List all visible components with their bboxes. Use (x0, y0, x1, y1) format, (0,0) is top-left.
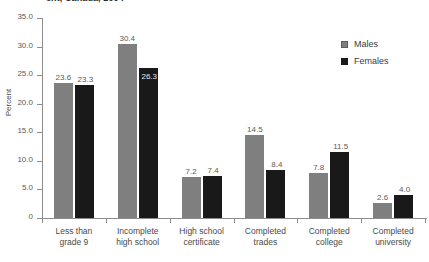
legend-item-males: Males (341, 39, 389, 49)
bar-value-label: 26.3 (139, 72, 160, 81)
bar-value-label: 4.0 (394, 185, 415, 194)
bar-group: 7.27.4 (170, 18, 234, 218)
x-axis-line (42, 218, 427, 219)
y-axis-label: Percent (4, 73, 13, 133)
legend-label-males: Males (354, 39, 378, 49)
legend-item-females: Females (341, 56, 389, 66)
bar-group: 30.426.3 (106, 18, 170, 218)
y-axis-tick-label: 20.0 (17, 98, 33, 107)
chart-title: ent, Canada, 2004 (46, 0, 124, 3)
bar-males (182, 177, 201, 218)
bar-females (330, 152, 349, 218)
y-axis-tick-label: 30.0 (17, 41, 33, 50)
x-axis-category-label: Completeduniversity (350, 226, 429, 248)
x-axis-tick (106, 218, 107, 223)
x-axis-tick (170, 218, 171, 223)
bar-value-label: 30.4 (117, 34, 138, 43)
bar-females (394, 195, 413, 218)
y-axis-tick-label: 10.0 (17, 155, 33, 164)
y-axis-tick-label: 35.0 (17, 12, 33, 21)
bar-males (309, 173, 328, 218)
bar-females (139, 68, 158, 218)
x-axis-tick (297, 218, 298, 223)
bar-males (54, 83, 73, 218)
bar-group: 23.623.3 (42, 18, 106, 218)
bar-value-label: 8.4 (266, 160, 287, 169)
y-axis-tick-label: 25.0 (17, 69, 33, 78)
x-axis-tick (42, 218, 43, 223)
bar-group: 14.58.4 (234, 18, 298, 218)
bar-value-label: 11.5 (330, 142, 351, 151)
x-axis-tick (425, 218, 426, 223)
y-axis-tick-label: 5.0 (22, 183, 33, 192)
legend-swatch-males-icon (341, 41, 348, 48)
legend-swatch-females-icon (341, 58, 348, 65)
bar-males (118, 44, 137, 218)
bar-males (245, 135, 264, 218)
bar-females (203, 176, 222, 218)
category-label-line: university (350, 237, 429, 248)
bar-value-label: 7.2 (181, 167, 202, 176)
bar-value-label: 7.8 (308, 163, 329, 172)
x-axis-tick (361, 218, 362, 223)
bar-chart: ent, Canada, 2004 Percent 05.010.015.020… (0, 0, 429, 262)
bar-females (266, 170, 285, 218)
category-label-line: Completed (350, 226, 429, 237)
y-axis-tick-label: 0 (29, 212, 33, 221)
bar-value-label: 14.5 (244, 125, 265, 134)
bar-value-label: 2.6 (372, 193, 393, 202)
legend-label-females: Females (354, 56, 389, 66)
chart-legend: Males Females (341, 39, 389, 73)
bar-value-label: 7.4 (203, 166, 224, 175)
bar-value-label: 23.6 (53, 73, 74, 82)
y-axis-tick-label: 15.0 (17, 126, 33, 135)
x-axis-tick (234, 218, 235, 223)
bar-males (373, 203, 392, 218)
bar-value-label: 23.3 (75, 75, 96, 84)
bar-females (75, 85, 94, 218)
